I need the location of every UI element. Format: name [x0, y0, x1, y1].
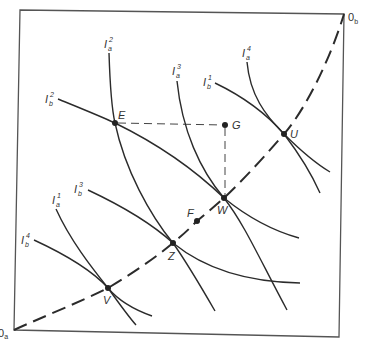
point-g-marker	[222, 122, 228, 128]
svg-text:3: 3	[79, 181, 83, 188]
svg-text:b: b	[207, 83, 211, 90]
svg-text:I: I	[172, 65, 175, 77]
svg-text:b: b	[49, 100, 53, 107]
svg-text:1: 1	[208, 74, 212, 81]
svg-text:2: 2	[49, 91, 54, 98]
svg-text:I: I	[242, 47, 245, 59]
edgeworth-box-diagram: E G U W F Z V 0a 0b I 2 a I 3 a I 4 a I …	[0, 0, 366, 346]
point-f-label: F	[187, 207, 195, 219]
guide-line-e-g	[118, 123, 224, 125]
svg-text:3: 3	[177, 63, 181, 70]
label-ib1: I 1 b	[203, 74, 212, 90]
point-f-marker	[194, 218, 200, 224]
point-u-label: U	[290, 128, 298, 140]
label-ia3: I 3 a	[172, 63, 181, 79]
svg-text:4: 4	[247, 45, 251, 52]
label-ib2: I 2 b	[45, 91, 54, 107]
point-z-label: Z	[167, 250, 176, 262]
svg-text:a: a	[176, 72, 180, 79]
label-ia4: I 4 a	[242, 45, 251, 61]
svg-text:I: I	[104, 38, 107, 50]
point-z-marker	[170, 240, 176, 246]
label-ib3: I 3 b	[74, 181, 83, 197]
svg-text:I: I	[203, 76, 206, 88]
curve-ia4	[247, 62, 320, 193]
label-ia1: I 1 a	[52, 192, 61, 208]
svg-text:I: I	[45, 93, 48, 105]
svg-text:b: b	[78, 190, 82, 197]
box-frame	[14, 10, 344, 337]
svg-text:b: b	[25, 241, 29, 248]
curve-ib2	[58, 99, 299, 238]
svg-text:a: a	[108, 45, 112, 52]
origin-b-label: 0b	[348, 11, 358, 25]
point-w-marker	[221, 195, 227, 201]
svg-text:4: 4	[26, 232, 30, 239]
point-v-marker	[105, 285, 111, 291]
curve-ia2	[109, 53, 215, 311]
label-ib4: I 4 b	[21, 232, 30, 248]
svg-text:2: 2	[108, 36, 113, 43]
svg-text:I: I	[52, 194, 55, 206]
curve-ib4	[34, 240, 152, 316]
origin-a-label: 0a	[0, 327, 8, 340]
point-e-label: E	[118, 109, 126, 121]
svg-text:a: a	[246, 54, 250, 61]
point-g-label: G	[232, 119, 241, 131]
svg-text:1: 1	[57, 192, 61, 199]
curve-ia1	[56, 209, 136, 325]
point-v-label: V	[103, 294, 112, 306]
point-u-marker	[281, 131, 287, 137]
point-w-label: W	[217, 204, 229, 216]
label-ia2: I 2 a	[104, 36, 113, 52]
svg-text:I: I	[74, 183, 77, 195]
svg-text:a: a	[56, 201, 60, 208]
curve-ib3	[88, 190, 300, 283]
svg-text:I: I	[21, 234, 24, 246]
